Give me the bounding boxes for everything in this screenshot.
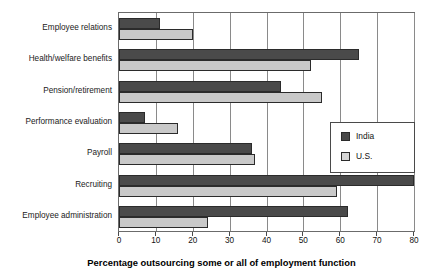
bar-india-pension-retirement xyxy=(119,81,281,92)
x-tick-label: 70 xyxy=(373,237,382,245)
legend-item-us: U.S. xyxy=(341,152,372,161)
bar-india-payroll xyxy=(119,143,252,154)
category-label: Employee relations xyxy=(0,24,112,32)
bar-chart: Employee relationsHealth/welfare benefit… xyxy=(0,0,443,278)
bar-india-employee-administration xyxy=(119,206,348,217)
gridline xyxy=(303,13,304,231)
legend-swatch-icon-us xyxy=(341,152,350,161)
bar-india-employee-relations xyxy=(119,18,160,29)
category-label: Recruiting xyxy=(0,181,112,189)
bar-us-recruiting xyxy=(119,186,337,197)
legend-item-india: India xyxy=(341,132,374,141)
category-label: Payroll xyxy=(0,149,112,157)
x-tick-label: 30 xyxy=(225,237,234,245)
legend: India U.S. xyxy=(330,122,415,173)
gridline xyxy=(230,13,231,231)
bar-us-performance-evaluation xyxy=(119,123,178,134)
bar-india-recruiting xyxy=(119,175,414,186)
bar-us-employee-relations xyxy=(119,29,193,40)
category-label: Employee administration xyxy=(0,212,112,220)
gridline xyxy=(193,13,194,231)
bar-india-performance-evaluation xyxy=(119,112,145,123)
category-label: Health/welfare benefits xyxy=(0,55,112,63)
x-tick-label: 10 xyxy=(151,237,160,245)
x-tick-label: 60 xyxy=(336,237,345,245)
category-label: Pension/retirement xyxy=(0,86,112,94)
x-axis: 01020304050607080 xyxy=(118,232,415,248)
legend-label-india: India xyxy=(356,132,374,140)
bar-us-employee-administration xyxy=(119,217,208,228)
bar-india-health-welfare-benefits xyxy=(119,49,359,60)
x-tick-label: 20 xyxy=(188,237,197,245)
gridline xyxy=(156,13,157,231)
legend-swatch-icon-india xyxy=(341,132,350,141)
bar-us-health-welfare-benefits xyxy=(119,60,311,71)
x-tick-label: 50 xyxy=(299,237,308,245)
gridline xyxy=(267,13,268,231)
x-tick-label: 80 xyxy=(409,237,418,245)
x-axis-title: Percentage outsourcing some or all of em… xyxy=(0,258,443,267)
x-tick-label: 40 xyxy=(262,237,271,245)
category-axis: Employee relationsHealth/welfare benefit… xyxy=(0,12,115,232)
bar-us-pension-retirement xyxy=(119,92,322,103)
legend-label-us: U.S. xyxy=(356,152,372,160)
category-label: Performance evaluation xyxy=(0,118,112,126)
x-tick-label: 0 xyxy=(117,237,122,245)
bar-us-payroll xyxy=(119,154,255,165)
